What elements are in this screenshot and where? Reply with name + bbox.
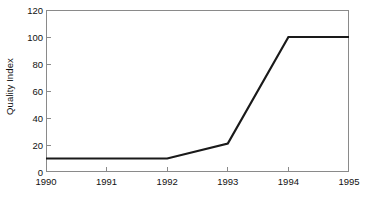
- y-axis-title-label: Quality Index: [4, 58, 15, 115]
- x-tick-label: 1990: [35, 176, 56, 187]
- y-tick-label: 120: [27, 5, 43, 16]
- y-axis-tick-labels: 020406080100120: [18, 0, 46, 172]
- axis-tickmarks: [46, 37, 288, 172]
- line-chart-figure: Quality Index 020406080100120 1990199119…: [0, 0, 365, 197]
- y-tick-label: 40: [32, 113, 43, 124]
- data-series-line: [46, 37, 349, 159]
- x-tick-label: 1994: [278, 176, 299, 187]
- y-tick-label: 60: [32, 86, 43, 97]
- plot-frame: [47, 11, 349, 172]
- y-axis-title: Quality Index: [0, 0, 18, 172]
- y-tick-label: 20: [32, 140, 43, 151]
- plot-area: [46, 10, 349, 172]
- y-tick-label: 100: [27, 32, 43, 43]
- plot-svg: [46, 10, 349, 172]
- x-tick-label: 1995: [338, 176, 359, 187]
- x-axis-tick-labels: 199019911992199319941995: [46, 172, 349, 197]
- y-tick-label: 80: [32, 59, 43, 70]
- x-tick-label: 1993: [217, 176, 238, 187]
- x-tick-label: 1992: [157, 176, 178, 187]
- x-tick-label: 1991: [96, 176, 117, 187]
